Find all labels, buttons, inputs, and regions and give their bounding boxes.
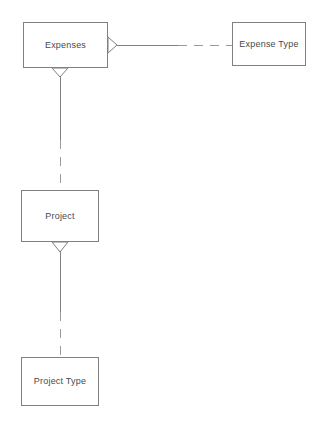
entity-box-project-type[interactable]: Project Type [21,357,99,406]
crows-foot-icon-expenses-right [108,37,117,53]
entity-box-expense-type[interactable]: Expense Type [232,22,306,66]
er-diagram-canvas: Expenses Expense Type Project Project Ty… [0,0,319,426]
crows-foot-icon-project-bottom [52,242,68,252]
entity-label-project-type: Project Type [34,377,86,386]
connector-expenses-expense-type[interactable] [108,37,232,53]
connector-expenses-project[interactable] [52,68,68,190]
entity-box-project[interactable]: Project [21,190,99,242]
entity-label-project: Project [45,212,74,221]
entity-label-expense-type: Expense Type [239,40,298,49]
entity-box-expenses[interactable]: Expenses [23,22,108,68]
crows-foot-icon-expenses-bottom [52,68,68,77]
connector-project-project-type[interactable] [52,242,68,357]
entity-label-expenses: Expenses [45,41,86,50]
